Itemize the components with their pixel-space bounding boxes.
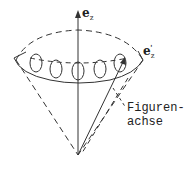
figure-axis-arrowhead xyxy=(120,57,126,65)
nutation-loop xyxy=(30,54,42,72)
cone-left-edge xyxy=(16,60,78,155)
nutation-loop xyxy=(94,60,106,78)
ez-prime-label: ez' xyxy=(143,44,157,58)
cone-rim-left xyxy=(14,52,26,58)
inner-cone-right xyxy=(82,78,128,153)
ez-arrowhead xyxy=(75,10,81,18)
ez-label: ez xyxy=(82,6,93,20)
figure-axis-label-line2: achse xyxy=(127,115,163,129)
diagram-graphics xyxy=(0,0,190,169)
nutation-loop xyxy=(50,60,62,78)
figure-axis-label-line1: Figuren- xyxy=(127,101,185,115)
nutation-cone-diagram: ez ez' Figuren- achse xyxy=(0,0,190,169)
label-pointer xyxy=(113,88,126,108)
figure-axis xyxy=(78,60,124,155)
